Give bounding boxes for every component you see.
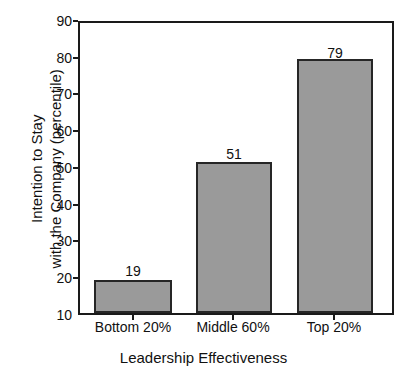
bar-chart-figure: 90 80 70 60 50 40 30 20 10 19 51 79 Bott… [0,0,407,376]
y-axis-title-line-2: with the Company (percentile) [47,19,66,319]
bar-value-label-top-20: 79 [295,46,375,60]
bar-value-label-bottom-20: 19 [92,264,174,278]
y-axis-title: Intention to Stay with the Company (perc… [28,19,66,319]
x-axis-title: Leadership Effectiveness [0,350,407,365]
x-axis-category-middle-60: Middle 60% [183,320,283,334]
x-axis-category-top-20: Top 20% [286,320,382,334]
bar-top-20[interactable] [297,59,373,313]
bar-value-label-middle-60: 51 [194,147,274,161]
bar-bottom-20[interactable] [94,280,172,313]
x-axis-category-bottom-20: Bottom 20% [83,320,183,334]
bar-middle-60[interactable] [196,162,272,313]
y-axis-title-line-1: Intention to Stay [28,19,47,319]
